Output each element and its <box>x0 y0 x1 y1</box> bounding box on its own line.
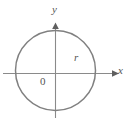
origin-label: 0 <box>40 76 46 87</box>
radius-label: r <box>74 52 78 63</box>
x-axis-label: x <box>118 65 123 76</box>
y-axis-arrowhead <box>52 23 59 30</box>
y-axis-label: y <box>52 4 57 15</box>
coordinate-plane-diagram <box>0 0 131 130</box>
figure-container: y x r 0 <box>0 0 131 130</box>
